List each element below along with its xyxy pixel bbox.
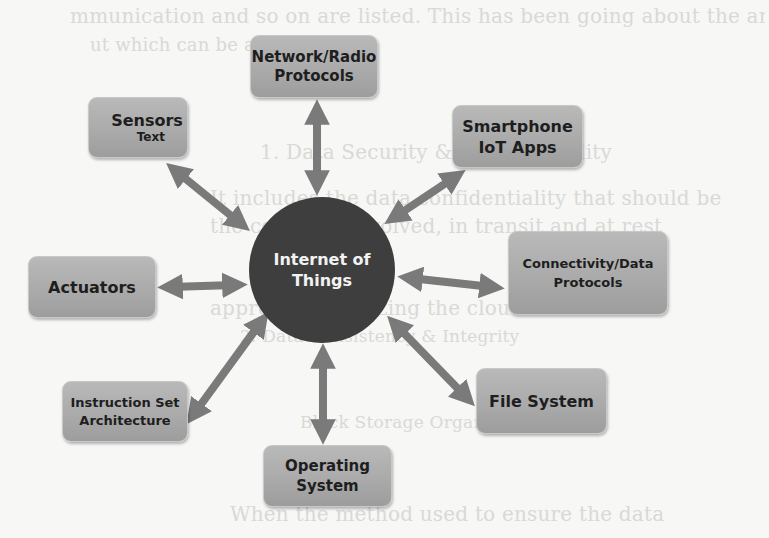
node-instruction-set-architecture: Instruction Set Architecture [62,381,188,442]
node-file-system: File System [476,368,607,434]
node-label: IoT Apps [478,137,556,158]
node-sensors: Sensors Text [88,97,188,158]
arrow-smartphone [395,177,455,217]
node-label: Connectivity/Data [522,254,653,273]
node-sublabel: Text [137,130,165,144]
node-label: Instruction Set [70,394,179,412]
node-connectivity-data-protocols: Connectivity/Data Protocols [508,231,668,315]
node-label: Actuators [48,278,136,297]
node-actuators: Actuators [28,256,156,318]
node-label: File System [489,392,594,411]
arrow-sensors [176,171,240,223]
node-label: System [296,476,358,496]
arrow-isa [194,322,261,414]
arrow-actuators [170,285,235,287]
node-label: Protocols [274,67,353,86]
hub-internet-of-things: Internet of Things [249,197,395,343]
node-label: Protocols [554,273,623,292]
arrow-connectivity [410,278,492,287]
node-label: Operating [285,456,370,476]
arrow-filesystem [396,325,466,397]
node-smartphone-iot-apps: Smartphone IoT Apps [452,105,583,168]
hub-label-line1: Internet of [273,249,370,270]
hub-label-line2: Things [273,270,370,291]
node-label: Architecture [79,412,170,430]
node-label: Smartphone [462,116,573,137]
node-label: Network/Radio [252,48,377,67]
node-label: Sensors [111,111,183,130]
node-operating-system: Operating System [263,445,392,507]
node-network-radio-protocols: Network/Radio Protocols [250,35,378,98]
